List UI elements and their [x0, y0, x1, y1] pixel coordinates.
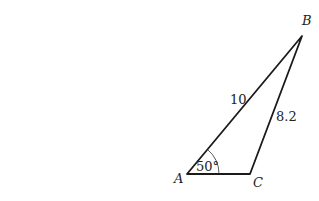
vertex-label-b: B [301, 13, 312, 28]
vertex-label-c: C [253, 175, 263, 190]
side-label-ab: 10 [230, 92, 247, 107]
triangle-diagram: A B C 10 8.2 50° [0, 0, 319, 201]
vertex-label-a: A [173, 171, 183, 186]
side-label-bc: 8.2 [276, 109, 297, 124]
angle-label-a: 50° [196, 159, 219, 174]
